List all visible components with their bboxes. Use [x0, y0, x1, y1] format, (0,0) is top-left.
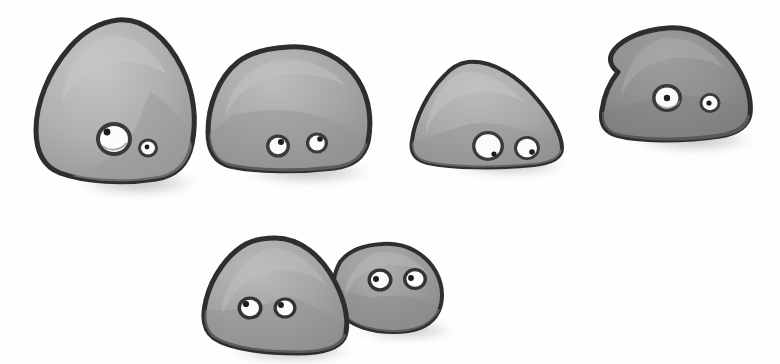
- rock-4-right-pupil: [706, 100, 711, 105]
- rock-1-left-pupil: [104, 129, 111, 136]
- rock-3: [412, 62, 562, 168]
- rock-6-right-eye: [403, 268, 427, 290]
- rock-4-right-eye: [700, 93, 721, 113]
- illustration-canvas: Six grey cartoon rocks with googly eyes: [0, 0, 780, 364]
- rock-1-right-pupil: [145, 145, 150, 150]
- rock-5-left-pupil: [243, 301, 249, 307]
- rock-4-left-eye: [652, 84, 682, 112]
- rock-5-right-eye: [274, 298, 297, 319]
- rock-3-right-eye: [514, 136, 540, 160]
- rock-3-right-pupil: [529, 149, 535, 155]
- rock-2-left-eye-white: [269, 138, 286, 154]
- rock-1-left-eye: [96, 122, 132, 156]
- rock-2-right-eye: [306, 133, 328, 154]
- rock-6-left-eye: [368, 269, 393, 292]
- rock-5-right-pupil: [278, 302, 284, 308]
- rock-2: [208, 47, 370, 172]
- rock-3-left-eye: [472, 131, 504, 161]
- rock-6: [333, 244, 442, 332]
- rocks-illustration: [0, 0, 780, 364]
- rock-3-left-pupil: [491, 151, 496, 156]
- rock-3-left-eye-white: [475, 134, 500, 158]
- rock-4-left-pupil: [664, 95, 670, 101]
- rock-2-left-eye: [266, 135, 290, 158]
- rock-6-left-pupil: [373, 276, 379, 282]
- rock-5: [204, 238, 347, 353]
- rock-1: [36, 20, 194, 182]
- rock-6-right-pupil: [408, 275, 414, 281]
- rock-5-left-eye: [238, 297, 263, 320]
- rock-3-right-eye-white: [517, 139, 537, 157]
- rock-2-right-pupil: [317, 136, 323, 142]
- rock-4: [602, 28, 751, 141]
- rock-1-right-eye: [138, 139, 158, 158]
- rock-2-left-pupil: [278, 139, 284, 145]
- rock-1-left-eye-white: [100, 126, 128, 152]
